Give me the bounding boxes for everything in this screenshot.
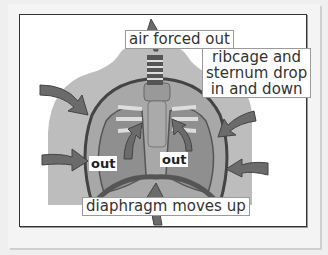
air-forced-out-label: air forced out xyxy=(125,30,234,49)
out-label-left: out xyxy=(89,156,117,171)
ribcage-label-line: ribcage and xyxy=(206,49,307,65)
diagram-frame: air forced out ribcage and sternum drop … xyxy=(19,14,307,227)
out-label-right: out xyxy=(160,152,188,167)
ribcage-label-line: sternum drop xyxy=(206,65,307,81)
diaphragm-label: diaphragm moves up xyxy=(82,197,250,216)
ribcage-label: ribcage and sternum drop in and down xyxy=(202,48,311,98)
trachea-icon xyxy=(147,55,163,85)
ribcage-label-line: in and down xyxy=(206,81,307,97)
